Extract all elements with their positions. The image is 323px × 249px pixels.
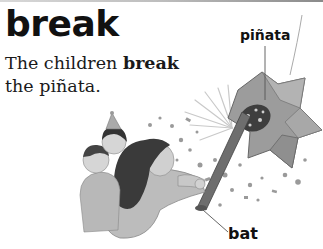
dictionary-page: break The children break the piñata. bbox=[0, 0, 323, 249]
pinata-label: piñata bbox=[240, 27, 290, 43]
burst-rays bbox=[185, 85, 232, 140]
bat-leader-line bbox=[203, 210, 228, 232]
party-hat-child-illustration bbox=[102, 111, 127, 154]
boy-illustration bbox=[80, 145, 120, 232]
pinata-string bbox=[290, 15, 302, 75]
bat-label: bat bbox=[228, 224, 258, 243]
